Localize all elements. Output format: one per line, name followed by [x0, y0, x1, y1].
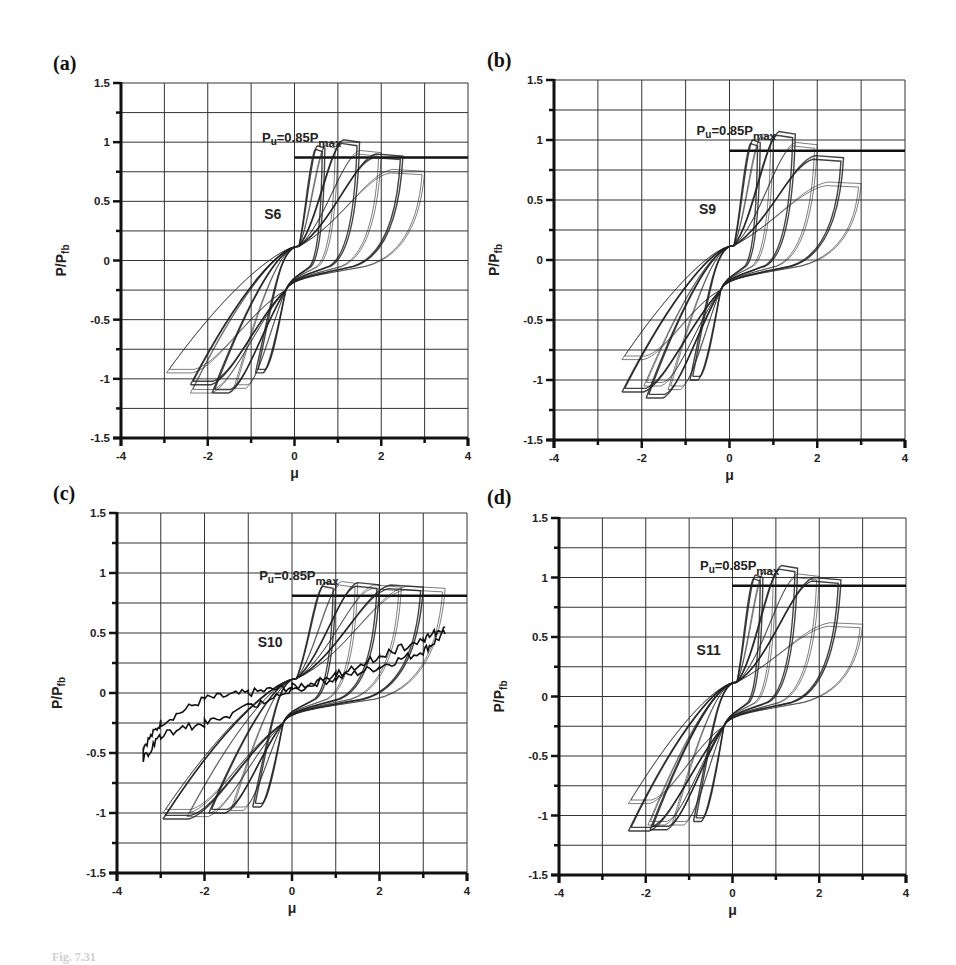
- x-tick-label: 4: [464, 885, 471, 897]
- x-tick-label: -2: [203, 450, 213, 462]
- y-tick-label: 1.5: [532, 512, 549, 524]
- hysteresis-cycle: [625, 186, 859, 356]
- y-tick-label: -0.5: [86, 747, 106, 759]
- x-tick-label: 2: [816, 887, 822, 899]
- hysteresis-cycle: [166, 589, 421, 816]
- y-tick-label: -1.5: [528, 869, 548, 881]
- x-tick-label: -4: [554, 887, 565, 899]
- x-tick-label: -2: [637, 452, 647, 464]
- specimen-label: S10: [258, 634, 283, 650]
- x-tick-label: 4: [903, 887, 910, 899]
- x-tick-label: 4: [465, 450, 472, 462]
- y-tick-label: -0.5: [528, 750, 548, 762]
- x-tick-label: 2: [378, 450, 384, 462]
- y-tick-label: -0.5: [523, 314, 543, 326]
- y-tick-label: 0.5: [532, 631, 549, 643]
- hysteresis-cycle: [258, 149, 322, 369]
- hysteresis-cycle: [628, 578, 841, 831]
- hysteresis-loops: [622, 132, 861, 398]
- x-tick-label: 4: [902, 452, 909, 464]
- hysteresis-cycle: [163, 586, 445, 813]
- x-tick-label: 2: [376, 885, 382, 897]
- hysteresis-cycle: [169, 173, 422, 369]
- y-tick-label: -1: [100, 373, 111, 385]
- figure-caption-fragment: Fig. 7.31: [52, 950, 96, 965]
- hysteresis-cycle: [255, 586, 333, 803]
- hysteresis-cycle: [231, 581, 358, 810]
- threshold-label: Pu=0.85Pmax: [259, 568, 339, 587]
- hysteresis-cycle: [651, 578, 817, 822]
- x-tick-label: 2: [814, 452, 820, 464]
- hysteresis-cycle: [625, 159, 841, 388]
- y-tick-label: 0: [537, 254, 543, 266]
- y-tick-label: 1.5: [90, 507, 107, 519]
- y-tick-label: -1.5: [86, 867, 106, 879]
- y-tick-label: 0: [104, 255, 110, 267]
- hysteresis-cycle: [187, 585, 401, 817]
- y-tick-label: 1.5: [527, 74, 544, 86]
- hysteresis-loops: [628, 566, 862, 831]
- hysteresis-loops: [167, 140, 425, 393]
- y-axis-title: P/Pfb: [49, 677, 67, 709]
- hysteresis-cycle: [622, 182, 861, 360]
- x-tick-label: -4: [116, 450, 127, 462]
- y-axis-title: P/Pfb: [486, 244, 504, 276]
- x-tick-label: -4: [549, 452, 560, 464]
- y-tick-label: 0.5: [527, 194, 544, 206]
- x-axis-title: μ: [728, 902, 737, 918]
- y-tick-label: -1.5: [523, 434, 543, 446]
- x-axis-title: μ: [290, 465, 299, 481]
- y-tick-label: 0: [100, 687, 106, 699]
- chart-panel-c: -4-2024-1.5-1-0.500.511.5μP/PfbPu=0.85Pm…: [49, 507, 471, 916]
- chart-panel-d: -4-2024-1.5-1-0.500.511.5μP/PfbPu=0.85Pm…: [491, 512, 910, 918]
- y-axis-title: P/Pfb: [491, 680, 509, 712]
- y-tick-label: -1: [538, 810, 549, 822]
- y-tick-label: 1.5: [94, 77, 111, 89]
- chart-panel-a: -4-2024-1.5-1-0.500.511.5μP/PfbPu=0.85Pm…: [53, 77, 472, 481]
- y-tick-label: -0.5: [90, 314, 110, 326]
- degraded-noisy-cycle: [143, 627, 445, 762]
- x-axis-title: μ: [288, 900, 297, 916]
- y-tick-label: 1: [104, 136, 111, 148]
- x-tick-label: 0: [289, 885, 295, 897]
- y-tick-label: 1: [542, 572, 549, 584]
- y-axis-title: P/Pfb: [53, 244, 71, 276]
- x-tick-label: 0: [729, 887, 735, 899]
- y-tick-label: 1: [100, 567, 107, 579]
- x-tick-label: -2: [641, 887, 651, 899]
- hysteresis-cycle: [215, 143, 357, 389]
- x-axis-title: μ: [725, 467, 734, 483]
- hysteresis-cycle: [631, 581, 838, 827]
- chart-panel-b: -4-2024-1.5-1-0.500.511.5μP/PfbPu=0.85Pm…: [486, 74, 909, 483]
- hysteresis-cycle: [167, 169, 425, 373]
- y-tick-label: -1: [96, 807, 107, 819]
- x-tick-label: -4: [112, 885, 123, 897]
- specimen-label: S11: [697, 642, 721, 658]
- x-tick-label: -2: [199, 885, 209, 897]
- hysteresis-cycle: [163, 585, 423, 819]
- specimen-label: S6: [264, 206, 281, 222]
- y-tick-label: 1: [537, 134, 544, 146]
- hysteresis-cycle: [190, 150, 381, 393]
- threshold-label: Pu=0.85Pmax: [262, 130, 342, 149]
- x-tick-label: 0: [291, 450, 297, 462]
- hysteresis-cycle: [212, 586, 377, 809]
- hysteresis-cycle: [166, 590, 443, 810]
- y-tick-label: 0.5: [90, 627, 107, 639]
- hysteresis-cycle: [193, 154, 379, 389]
- y-tick-label: -1.5: [90, 432, 110, 444]
- y-tick-label: -1: [533, 374, 544, 386]
- y-tick-label: 0: [542, 691, 548, 703]
- y-tick-label: 0.5: [94, 195, 111, 207]
- specimen-label: S9: [699, 201, 716, 217]
- hysteresis-cycle: [696, 579, 760, 818]
- x-tick-label: 0: [726, 452, 732, 464]
- hysteresis-cycle: [649, 135, 793, 394]
